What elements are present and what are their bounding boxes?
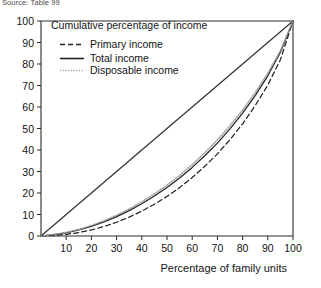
legend-label-primary: Primary income — [90, 38, 163, 50]
y-axis-ticks: 0102030405060708090100 — [16, 15, 41, 242]
legend-label-total: Total income — [90, 52, 149, 64]
x-tick-label: 30 — [111, 242, 123, 254]
y-tick-label: 100 — [16, 15, 34, 27]
y-tick-label: 80 — [22, 58, 34, 70]
x-axis-ticks: 102030405060708090100 — [60, 236, 302, 254]
chart-canvas: 0102030405060708090100 10203040506070809… — [0, 0, 321, 288]
legend-label-disposable: Disposable income — [90, 64, 179, 76]
y-tick-label: 0 — [28, 230, 34, 242]
y-tick-label: 10 — [22, 209, 34, 221]
series-line-line-of-equality — [41, 21, 293, 236]
legend-entry-primary: Primary income — [60, 38, 163, 50]
y-tick-label: 20 — [22, 187, 34, 199]
x-tick-label: 40 — [136, 242, 148, 254]
x-tick-label: 80 — [237, 242, 249, 254]
y-tick-label: 50 — [22, 123, 34, 135]
y-tick-label: 60 — [22, 101, 34, 113]
x-axis-title: Percentage of family units — [160, 262, 287, 274]
series-layer — [41, 21, 293, 236]
x-tick-label: 20 — [86, 242, 98, 254]
x-tick-label: 10 — [60, 242, 72, 254]
legend-entry-total: Total income — [60, 52, 149, 64]
legend-entry-disposable: Disposable income — [60, 64, 179, 76]
y-tick-label: 30 — [22, 166, 34, 178]
y-tick-label: 90 — [22, 37, 34, 49]
lorenz-curve-figure: Source: Table 99 0102030405060708090100 … — [0, 0, 321, 288]
legend-title: Cumulative percentage of income — [51, 19, 208, 31]
legend: Cumulative percentage of income Primary … — [48, 16, 230, 76]
y-tick-label: 40 — [22, 144, 34, 156]
x-tick-label: 70 — [212, 242, 224, 254]
x-tick-label: 90 — [262, 242, 274, 254]
y-tick-label: 70 — [22, 80, 34, 92]
x-tick-label: 100 — [284, 242, 302, 254]
x-tick-label: 60 — [186, 242, 198, 254]
x-tick-label: 50 — [161, 242, 173, 254]
